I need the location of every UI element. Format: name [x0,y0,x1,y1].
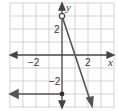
function-graph: y x −2 2 2 −2 [0,0,118,111]
closed-point [60,92,65,97]
y-axis-label: y [65,1,71,13]
x-tick-label-2: 2 [85,57,91,68]
y-tick-label-neg2: −2 [49,76,61,87]
y-tick-label-2: 2 [54,24,60,35]
x-tick-label-neg2: −2 [28,57,40,68]
open-point [59,13,64,18]
x-axis-label: x [107,56,113,68]
